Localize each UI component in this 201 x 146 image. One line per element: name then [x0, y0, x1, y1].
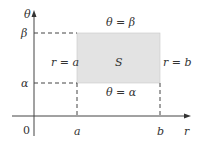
r-axis-label: r — [184, 125, 190, 138]
region-label: S — [115, 56, 123, 69]
b-tick-label: b — [157, 125, 164, 138]
r-axis-arrow-icon — [184, 114, 191, 119]
right-edge-label: r = b — [163, 56, 192, 69]
a-tick-label: a — [74, 125, 81, 138]
theta-axis-label: θ — [24, 8, 31, 21]
theta-axis-arrow-icon — [32, 10, 37, 17]
bottom-edge-label: θ = α — [106, 86, 137, 99]
alpha-tick-label: α — [21, 77, 29, 90]
top-edge-label: θ = β — [106, 16, 135, 29]
diagram-canvas: θ r 0 β α a b θ = β θ = α r = a r = b S — [0, 0, 201, 146]
left-edge-label: r = a — [51, 56, 79, 69]
origin-label: 0 — [23, 124, 30, 137]
beta-tick-label: β — [20, 27, 27, 40]
